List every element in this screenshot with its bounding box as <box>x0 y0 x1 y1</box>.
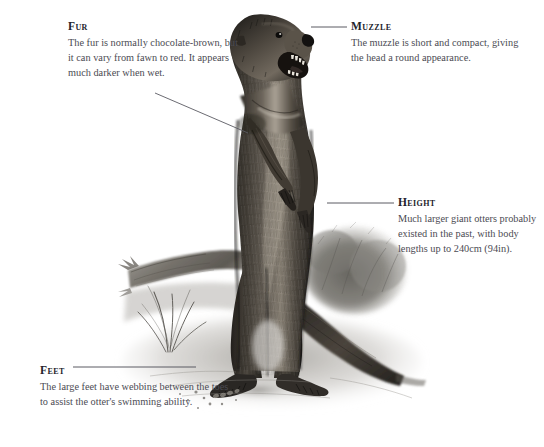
otter-foot-right <box>276 374 329 396</box>
fallen-log <box>118 250 306 330</box>
callout-muzzle-body: The muzzle is short and compact, giving … <box>351 35 526 65</box>
otter-forelimbs <box>238 114 318 233</box>
callout-fur-body: The fur is normally chocolate-brown, but… <box>68 35 240 80</box>
callout-fur: Fur The fur is normally chocolate-brown,… <box>68 20 240 80</box>
otter-muzzle <box>284 30 312 59</box>
background-bush <box>303 222 407 314</box>
callout-height-title: Height <box>398 196 540 208</box>
callout-height: Height Much larger giant otters probably… <box>398 196 540 256</box>
callout-fur-title: Fur <box>68 20 240 32</box>
otter-teeth <box>288 55 305 76</box>
callout-muzzle-title: Muzzle <box>351 20 526 32</box>
otter-body <box>225 10 325 385</box>
otter-forepaw-left <box>278 188 296 211</box>
callout-muzzle: Muzzle The muzzle is short and compact, … <box>351 20 526 65</box>
leader-line-fur <box>155 93 248 133</box>
otter-nose <box>302 34 314 47</box>
otter-open-mouth <box>278 52 309 79</box>
reed-grass <box>138 286 206 352</box>
otter-head <box>230 14 314 81</box>
callout-feet-body: The large feet have webbing between the … <box>40 379 230 409</box>
otter-neck <box>240 80 304 134</box>
otter-torso <box>231 15 314 372</box>
callout-feet: Feet The large feet have webbing between… <box>40 360 230 409</box>
otter-hind-leg-left <box>231 268 266 378</box>
otter-tail <box>288 300 426 386</box>
callout-height-body: Much larger giant otters probably existe… <box>398 211 540 256</box>
otter-eye <box>276 32 283 38</box>
illustration-page: Fur The fur is normally chocolate-brown,… <box>0 0 544 447</box>
callout-feet-title: Feet <box>40 364 65 376</box>
otter-forepaw-right <box>297 210 311 233</box>
otter-foreleg-left <box>246 118 293 193</box>
otter-foreleg-right <box>290 128 318 218</box>
otter-hind-leg-right <box>270 268 302 378</box>
